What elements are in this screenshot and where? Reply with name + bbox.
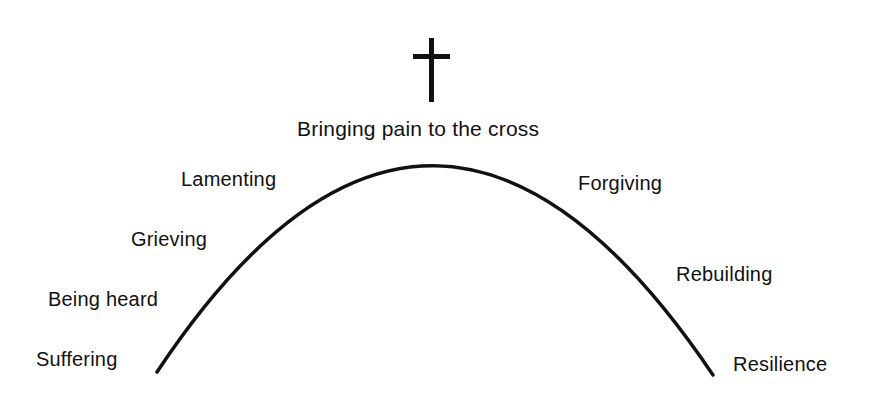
stage-suffering: Suffering: [36, 349, 118, 369]
stage-being-heard: Being heard: [48, 289, 158, 309]
stage-lamenting: Lamenting: [181, 169, 276, 189]
diagram-title: Bringing pain to the cross: [297, 118, 539, 139]
arc-curve: [0, 0, 875, 396]
stage-resilience: Resilience: [733, 354, 827, 374]
healing-arc-diagram: Bringing pain to the cross Suffering Bei…: [0, 0, 875, 396]
cross-icon: [413, 38, 450, 102]
stage-rebuilding: Rebuilding: [676, 264, 773, 284]
stage-forgiving: Forgiving: [578, 173, 662, 193]
stage-grieving: Grieving: [131, 229, 207, 249]
